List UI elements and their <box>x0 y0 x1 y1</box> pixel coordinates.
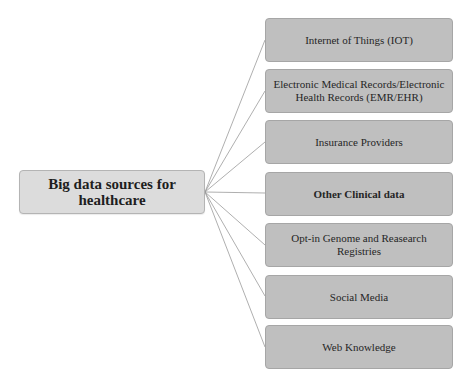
source-label: Opt-in Genome and Reasearch Registries <box>269 232 449 258</box>
connector-iot <box>205 40 265 192</box>
root-node-label: Big data sources for healthcare <box>20 176 204 208</box>
connector-genome <box>205 192 265 245</box>
root-node: Big data sources for healthcare <box>19 170 205 214</box>
source-node-genome: Opt-in Genome and Reasearch Registries <box>265 223 453 267</box>
source-node-clinical: Other Clinical data <box>265 172 453 216</box>
connector-social <box>205 192 265 296</box>
connector-web <box>205 192 265 347</box>
source-label: Web Knowledge <box>322 341 395 354</box>
source-node-iot: Internet of Things (IOT) <box>265 18 453 62</box>
source-node-web-knowledge: Web Knowledge <box>265 325 453 369</box>
connector-clinical <box>205 192 265 193</box>
source-label: Insurance Providers <box>315 136 403 149</box>
source-label: Internet of Things (IOT) <box>305 34 413 47</box>
source-node-insurance: Insurance Providers <box>265 120 453 164</box>
source-label: Other Clinical data <box>314 188 405 201</box>
connector-emr <box>205 91 265 192</box>
source-label: Electronic Medical Records/Electronic He… <box>269 78 449 104</box>
source-node-social-media: Social Media <box>265 275 453 319</box>
source-node-emr-ehr: Electronic Medical Records/Electronic He… <box>265 69 453 113</box>
connector-insurance <box>205 142 265 192</box>
source-label: Social Media <box>330 291 388 304</box>
